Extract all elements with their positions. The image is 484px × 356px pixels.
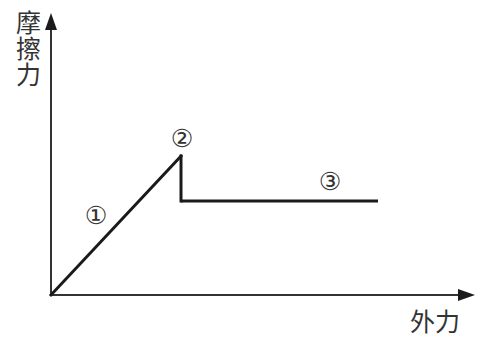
marker-1: ① bbox=[85, 203, 107, 228]
x-axis-label: 外力 bbox=[410, 308, 460, 338]
marker-2: ② bbox=[171, 126, 193, 151]
friction-graph bbox=[0, 0, 484, 356]
diagram-canvas: 摩擦力 外力 ① ② ③ bbox=[0, 0, 484, 356]
y-axis-arrow-icon bbox=[45, 13, 57, 30]
static-friction-line bbox=[51, 156, 181, 295]
marker-3: ③ bbox=[319, 169, 341, 194]
y-axis-label: 摩擦力 bbox=[12, 10, 40, 88]
x-axis-arrow-icon bbox=[458, 289, 475, 301]
